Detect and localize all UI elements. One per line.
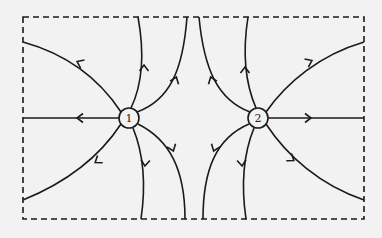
charge-2: 2	[248, 108, 268, 128]
field-line-c1-down-2	[138, 124, 185, 219]
arrowhead-icon	[93, 155, 103, 166]
field-line-c2-lower-right	[266, 124, 364, 200]
field-line-arrows	[75, 56, 314, 166]
charge-label: 2	[255, 112, 262, 125]
field-line-c1-down-1	[133, 128, 144, 219]
charge-label: 1	[126, 112, 133, 125]
field-line-c1-up-1	[131, 17, 142, 108]
field-line-c2-upper-right	[266, 42, 364, 112]
field-line-c2-up-2	[199, 17, 250, 112]
field-line-c1-lower-left	[23, 124, 121, 200]
field-line-c2-down-2	[203, 124, 249, 219]
field-line-c2-down-1	[243, 128, 254, 219]
field-line-c1-upper-left	[23, 42, 121, 112]
field-line-c2-up-1	[245, 17, 256, 108]
field-lines	[23, 17, 364, 219]
field-line-diagram: 12	[0, 0, 382, 238]
arrowhead-icon	[241, 67, 250, 73]
charge-1: 1	[119, 108, 139, 128]
